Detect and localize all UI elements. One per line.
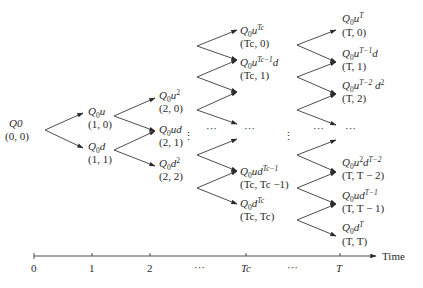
node-coord: (T, T − 1) xyxy=(342,202,385,215)
node-coord: (Tc, Tc −1) xyxy=(240,178,289,191)
ellipsis-markers: ⋮ ··· ··· ⋮ ··· ··· xyxy=(183,122,356,142)
edge-arrow xyxy=(297,30,336,45)
node-2-1: Q0ud (2, 1) xyxy=(159,123,183,149)
edge-arrow xyxy=(297,45,336,62)
edge-arrow xyxy=(297,220,336,236)
node-1-0: Q0u (1, 0) xyxy=(88,105,112,131)
node-1-1: Q0d (1, 1) xyxy=(88,140,112,166)
edge-arrow xyxy=(297,94,336,110)
edge-arrow xyxy=(297,188,336,204)
vdots: ⋮ xyxy=(183,130,194,142)
axis-label: Time xyxy=(382,250,405,262)
edge-arrow xyxy=(197,139,237,155)
node-coord: (2, 1) xyxy=(159,136,183,149)
binomial-tree-diagram: Q0 (0, 0) Q0u (1, 0) Q0d (1, 1) Q0u2 (2,… xyxy=(0,0,423,288)
edge-arrow xyxy=(197,77,237,92)
node-tc-tc: Q0dTc (Tc, Tc) xyxy=(240,196,275,223)
node-coord: (T, 2) xyxy=(342,92,367,105)
edge-arrow xyxy=(197,171,237,188)
edge-arrow xyxy=(297,77,336,94)
ellipsis: ··· xyxy=(206,122,217,134)
node-coord: (T, 1) xyxy=(342,60,367,73)
svg-text:Q0: Q0 xyxy=(9,117,23,129)
ellipsis: ··· xyxy=(345,122,356,134)
time-axis: Time 0 1 2 ··· Tc ··· T xyxy=(31,250,405,274)
node-coord: (T, 0) xyxy=(342,26,367,39)
vdots: ⋮ xyxy=(283,130,294,142)
edge-arrow xyxy=(197,92,237,110)
node-coord: (2, 0) xyxy=(159,102,183,115)
node-t-1: Q0uT−1d (T, 1) xyxy=(342,46,378,73)
node-2-0: Q0u2 (2, 0) xyxy=(159,88,183,115)
svg-text:Q0dT: Q0dT xyxy=(342,220,364,236)
edge-arrow xyxy=(197,30,237,46)
tick-label: ··· xyxy=(194,261,205,273)
edge-arrow xyxy=(114,131,155,150)
node-t-tm2: Q0u2dT−2 (T, T − 2) xyxy=(342,155,385,182)
tick-label: T xyxy=(336,262,343,274)
node-coord: (T, T − 2) xyxy=(342,169,385,182)
node-tc-tcm1: Q0udTc−1 (Tc, Tc −1) xyxy=(240,164,289,191)
ellipsis: ··· xyxy=(244,122,255,134)
ellipsis: ··· xyxy=(313,122,324,134)
edge-arrow xyxy=(297,204,336,220)
tick-label: 1 xyxy=(89,262,95,274)
node-tc-1: Q0uTc−1d (Tc, 1) xyxy=(240,55,279,82)
edge-arrow xyxy=(114,98,155,116)
node-t-t: Q0dT (T, T) xyxy=(342,220,368,248)
node-coord: (2, 2) xyxy=(159,170,183,183)
edge-arrow xyxy=(114,116,155,131)
edge-arrow xyxy=(197,46,237,60)
edge-arrow xyxy=(197,155,237,171)
edge-arrow xyxy=(297,62,336,77)
edge-arrow xyxy=(45,130,83,148)
node-tc-0: Q0uTc (Tc, 0) xyxy=(240,23,269,50)
node-coord: (1, 1) xyxy=(88,153,112,166)
node-coord: (Tc, 1) xyxy=(240,69,269,82)
node-coord: (Tc, Tc) xyxy=(240,210,275,223)
node-t-2: Q0uT−2 d2 (T, 2) xyxy=(342,78,384,105)
edge-arrow xyxy=(197,188,237,204)
tick-label: Tc xyxy=(241,262,251,274)
node-coord: (Tc, 0) xyxy=(240,37,269,50)
node-coord: (0, 0) xyxy=(5,130,29,143)
edge-arrow xyxy=(197,60,237,77)
tick-label: 2 xyxy=(147,262,153,274)
node-root: Q0 (0, 0) xyxy=(5,117,29,143)
node-2-2: Q0d2 (2, 2) xyxy=(159,156,183,183)
edge-arrow xyxy=(197,110,237,124)
edge-arrow xyxy=(297,140,336,155)
tick-label: ··· xyxy=(287,261,298,273)
edge-arrow xyxy=(297,172,336,188)
node-t-0: Q0uT (T, 0) xyxy=(342,11,367,39)
edge-arrow xyxy=(297,155,336,172)
node-coord: (1, 0) xyxy=(88,118,112,131)
node-coord: (T, T) xyxy=(342,235,368,248)
edge-arrow xyxy=(114,150,155,166)
edge-arrow xyxy=(45,113,83,130)
node-t-tm1: Q0udT−1 (T, T − 1) xyxy=(342,188,385,215)
tick-label: 0 xyxy=(31,262,37,274)
svg-text:Q0uT: Q0uT xyxy=(342,11,364,27)
